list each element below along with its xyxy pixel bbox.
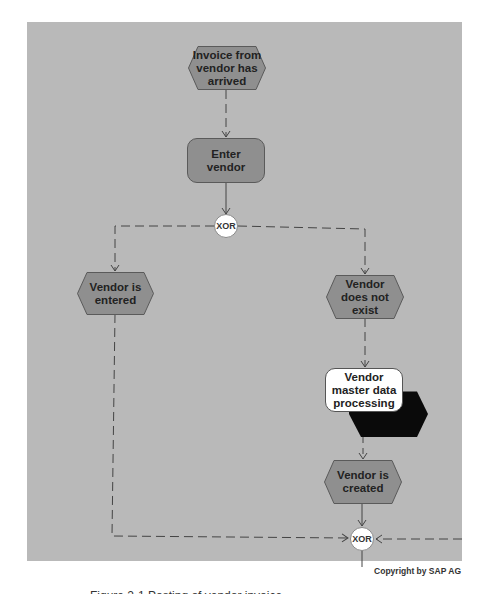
event-label: Invoice from vendor has arrived [188,49,266,88]
event-vendor-not-exist: Vendor does not exist [326,275,404,319]
function-label: Enter vendor [201,148,251,174]
subprocess-label: Vendor master data processing [329,371,399,410]
copyright-notice: Copyright by SAP AG [374,566,461,576]
event-invoice-arrived: Invoice from vendor has arrived [188,46,266,90]
event-label: Vendor is entered [90,281,142,307]
figure-caption: Figure 2-1 Posting of vendor invoice [90,587,282,594]
xor-connector-join: XOR [350,527,374,551]
event-vendor-created: Vendor is created [324,460,402,504]
function-enter-vendor: Enter vendor [187,138,265,183]
event-label: Vendor is created [335,469,391,495]
event-label: Vendor does not exist [332,278,398,317]
subprocess-vendor-master-data[interactable]: Vendor master data processing [325,368,403,412]
xor-connector-split: XOR [214,214,238,238]
event-vendor-entered: Vendor is entered [77,272,154,315]
